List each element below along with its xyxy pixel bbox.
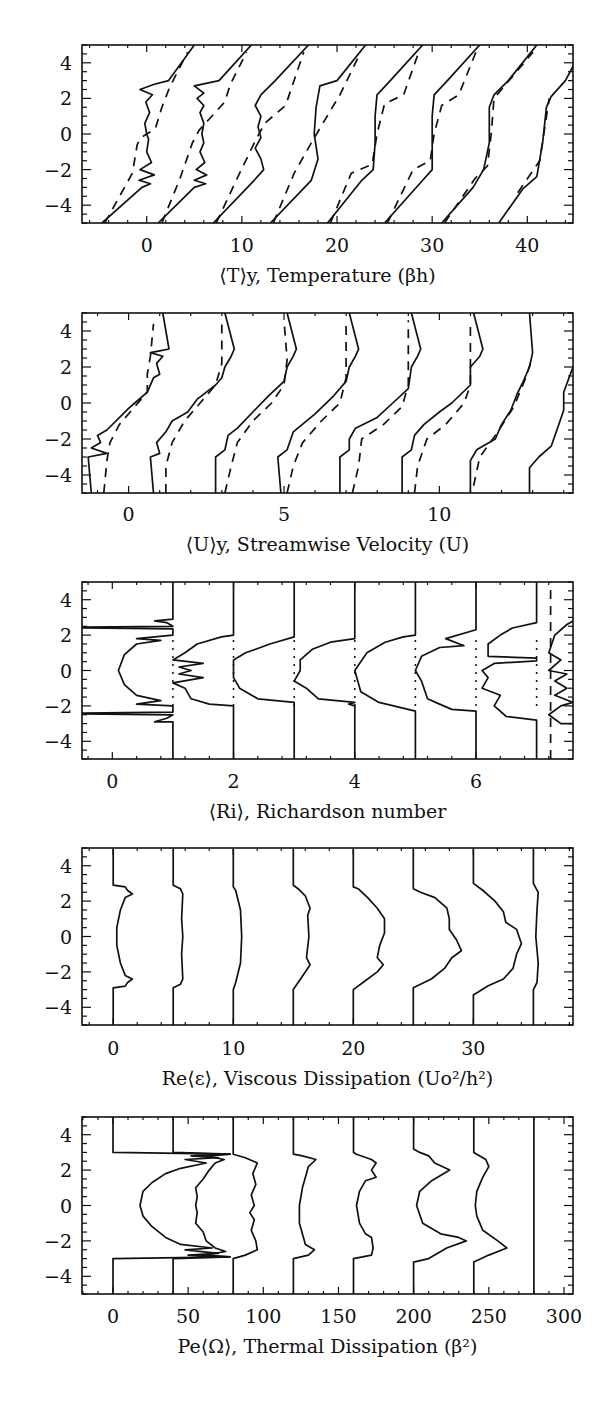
- x-tick-label: 150: [320, 1305, 356, 1327]
- y-tick-label: −2: [44, 1230, 72, 1252]
- x-tick-label: 100: [245, 1305, 281, 1327]
- x-tick-label: 200: [396, 1305, 432, 1327]
- x-tick-label: 0: [107, 1305, 119, 1327]
- series-group: [113, 1117, 534, 1294]
- y-tick-label: 4: [60, 1124, 72, 1146]
- profile-line-w4: [293, 1117, 316, 1294]
- x-tick-label: 250: [471, 1305, 507, 1327]
- plot-area: [0, 0, 613, 1407]
- profile-line-w6: [414, 1117, 467, 1294]
- profile-line-w7: [474, 1117, 507, 1294]
- y-tick-label: 2: [60, 1159, 72, 1181]
- profile-line-w5: [354, 1117, 377, 1294]
- y-tick-label: −4: [44, 1265, 72, 1287]
- profile-line-w3: [233, 1117, 257, 1294]
- profile-line-w2: [173, 1117, 230, 1294]
- axes-frame: [82, 1117, 573, 1294]
- profile-line-w1: [113, 1117, 230, 1294]
- x-axis-label: Pe⟨Ω⟩, Thermal Dissipation (β²): [178, 1335, 478, 1357]
- x-tick-label: 300: [546, 1305, 582, 1327]
- y-tick-label: 0: [60, 1195, 72, 1217]
- x-tick-label: 50: [176, 1305, 200, 1327]
